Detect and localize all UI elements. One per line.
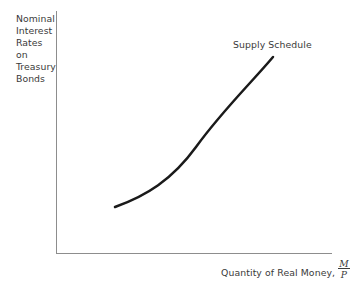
y-axis-label-line-3: Rates <box>16 37 60 49</box>
y-axis-label-line-6: Bonds <box>16 73 60 85</box>
x-axis-label-text: Quantity of Real Money, <box>221 268 335 277</box>
y-axis-label-line-4: on <box>16 49 60 61</box>
y-axis-label-line-2: Interest <box>16 25 60 37</box>
x-axis-label: Quantity of Real Money, M P <box>221 262 350 283</box>
fraction-numerator: M <box>338 259 350 269</box>
supply-schedule-label: Supply Schedule <box>233 40 312 49</box>
fraction-denominator: P <box>340 269 348 279</box>
y-axis-label: Nominal Interest Rates on Treasury Bonds <box>16 13 60 86</box>
y-axis-label-line-1: Nominal <box>16 13 60 25</box>
supply-schedule-curve <box>115 57 273 207</box>
y-axis-label-line-5: Treasury <box>16 61 60 73</box>
real-money-fraction: M P <box>338 259 350 280</box>
money-supply-schedule-figure: Nominal Interest Rates on Treasury Bonds… <box>0 0 350 289</box>
